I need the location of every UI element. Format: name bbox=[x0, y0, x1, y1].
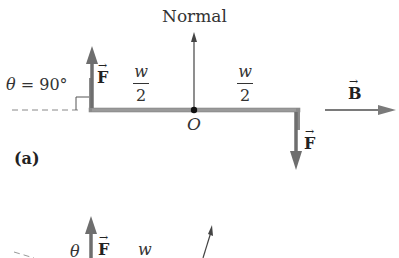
half-width-left: w 2 bbox=[131, 62, 151, 105]
force-label-b: →F bbox=[98, 240, 109, 258]
panel-label-a: (a) bbox=[14, 151, 40, 167]
field-label: →B bbox=[348, 84, 362, 103]
right-angle-marker bbox=[76, 97, 89, 110]
normal-arrow-head bbox=[191, 32, 197, 42]
origin-label: O bbox=[187, 116, 201, 133]
origin-point bbox=[191, 107, 197, 113]
force-label-left: →F bbox=[97, 68, 108, 87]
force-label-right: →F bbox=[304, 134, 315, 153]
width-label-b: w bbox=[138, 242, 152, 258]
force-arrow-up-b-head bbox=[85, 216, 97, 234]
vector-arrow-icon: → bbox=[349, 75, 358, 88]
normal-arrow-b bbox=[203, 232, 211, 258]
half-width-right: w 2 bbox=[235, 62, 255, 105]
force-arrow-up-head bbox=[86, 46, 98, 64]
vector-arrow-icon: → bbox=[99, 231, 108, 244]
reference-dashed-line-b bbox=[14, 252, 34, 258]
force-arrow-down-head bbox=[290, 151, 302, 170]
fraction-bar bbox=[237, 83, 253, 84]
normal-arrow-b-head bbox=[208, 225, 213, 236]
vector-arrow-icon: → bbox=[305, 125, 314, 138]
normal-label: Normal bbox=[162, 8, 227, 25]
field-arrow-head bbox=[378, 105, 396, 115]
theta-label-b: θ bbox=[70, 244, 80, 258]
vector-arrow-icon: → bbox=[98, 59, 107, 72]
theta-symbol: θ bbox=[6, 75, 16, 94]
theta-label: θ = 90° bbox=[6, 77, 68, 93]
fraction-bar bbox=[133, 83, 149, 84]
theta-value: = 90° bbox=[16, 75, 68, 94]
